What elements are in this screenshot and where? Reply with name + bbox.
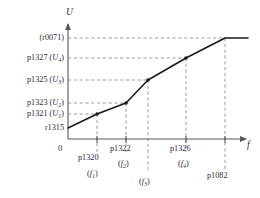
y-label-p1325: p1325 (U3): [27, 76, 64, 84]
y-label-p1323-symbol: (U2): [50, 98, 64, 107]
x-label-f3: (f3): [139, 178, 150, 186]
y-label-p1325-param: p1325: [27, 75, 47, 84]
y-label-p1327-symbol: (U4): [50, 53, 64, 62]
x-label-p1082: p1082: [207, 172, 227, 180]
x-label-f1: (f1): [87, 170, 98, 178]
breakpoint-u1: [95, 112, 98, 115]
uf-characteristic-figure: U (r0071) p1327 (U4) p1325 (U3) p1323 (U…: [0, 0, 260, 198]
breakpoint-u4: [184, 56, 187, 59]
origin-label: 0: [58, 144, 62, 153]
y-label-r1315: r1315: [45, 124, 64, 132]
y-label-p1321-param: p1321: [27, 109, 47, 118]
x-label-p1320: p1320: [78, 154, 98, 162]
breakpoint-u3: [146, 78, 149, 81]
breakpoint-u2: [124, 101, 127, 104]
y-label-r1315-text: r1315: [45, 123, 64, 132]
y-label-p1323-param: p1323: [27, 98, 47, 107]
y-label-p1327: p1327 (U4): [27, 54, 64, 62]
x-label-f4: (f4): [178, 160, 189, 168]
y-label-p1323: p1323 (U2): [27, 99, 64, 107]
y-label-r0071-text: (r0071): [39, 33, 64, 42]
y-label-p1327-param: p1327: [27, 53, 47, 62]
x-axis-name: f: [247, 141, 250, 151]
x-label-p1322: p1322: [110, 145, 130, 153]
x-label-p1326: p1326: [170, 145, 190, 153]
y-label-r0071: (r0071): [39, 34, 64, 42]
y-label-p1321-symbol: (U1): [50, 109, 64, 118]
y-axis-name: U: [66, 8, 73, 18]
y-label-p1325-symbol: (U3): [50, 75, 64, 84]
x-label-f2: (f2): [118, 160, 129, 168]
y-label-p1321: p1321 (U1): [27, 110, 64, 118]
uf-curve: [68, 38, 248, 128]
